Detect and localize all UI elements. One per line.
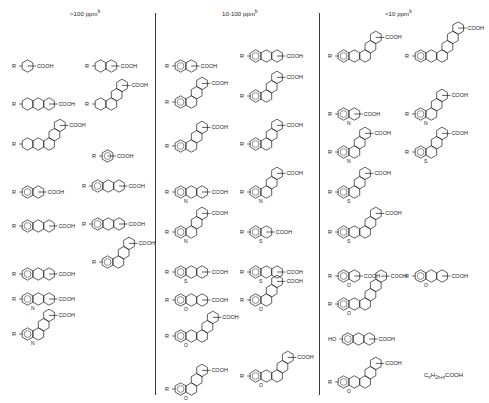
chemical-structure: RCOOH: [165, 78, 235, 112]
structure-drawing: ROCOOH: [328, 280, 415, 314]
substituent-label: R: [240, 189, 244, 195]
chemical-structure: RSCOOH: [328, 168, 398, 202]
structure-drawing: RCOOH: [12, 80, 82, 114]
structure-drawing: RCOOH: [12, 202, 82, 236]
chemical-structure: RCOOH: [240, 120, 310, 154]
cooh-label: COOH: [211, 297, 228, 303]
structure-drawing: RSCOOH: [328, 168, 398, 202]
structure-drawing: RCOOH: [328, 32, 409, 66]
structure-drawing: RCOOH: [240, 32, 310, 66]
cooh-label: COOH: [379, 336, 396, 342]
heteroatom-label: N: [31, 340, 35, 346]
cooh-label: COOH: [128, 183, 145, 189]
substituent-label: R: [12, 223, 16, 229]
structure-drawing: RNCOOH: [405, 90, 475, 124]
chemical-structure: RCOOH: [12, 42, 61, 76]
substituent-label: R: [92, 259, 96, 265]
structure-drawing: RCOOH: [82, 162, 152, 196]
structure-drawing: RSCOOH: [328, 208, 409, 242]
substituent-label: HO: [328, 336, 337, 342]
structure-drawing: RNCOOH: [165, 168, 235, 202]
heteroatom-label: N: [184, 198, 188, 204]
cooh-label: COOH: [385, 210, 402, 216]
structure-drawing: RNCOOH: [12, 310, 82, 344]
general-formula: CnH2n+zCOOH: [424, 372, 463, 380]
chemical-structure: RCOOH: [240, 32, 310, 66]
structure-drawing: RNCOOH: [165, 208, 235, 242]
substituent-label: R: [165, 189, 169, 195]
chemical-structure: RNCOOH: [240, 168, 310, 202]
structure-drawing: RCOOH: [240, 120, 310, 154]
structure-drawing: ROCOOH: [240, 276, 310, 310]
heteroatom-label: S: [347, 198, 351, 204]
chemical-structure: RCOOH: [82, 200, 152, 234]
substituent-label: R: [328, 229, 332, 235]
substituent-label: R: [240, 53, 244, 59]
heteroatom-label: O: [347, 388, 351, 394]
substituent-label: R: [240, 141, 244, 147]
substituent-label: R: [405, 111, 409, 117]
cooh-label: COOH: [211, 367, 228, 373]
chemical-structure: RNCOOH: [328, 90, 388, 124]
chemical-structure: RSCOOH: [405, 128, 475, 162]
heteroatom-label: N: [184, 238, 188, 244]
chemical-structure: ROCOOH: [405, 252, 475, 286]
structure-drawing: RCOOH: [12, 120, 93, 154]
chemical-structure: RCOOH: [12, 120, 93, 154]
structure-drawing: ROCOOH: [165, 365, 235, 399]
structure-drawing: RCOOH: [12, 42, 61, 76]
chemical-structure: RCOOH: [240, 72, 310, 106]
substituent-label: R: [165, 333, 169, 339]
header-text: >100 ppm: [70, 11, 98, 17]
structure-drawing: RCOOH: [165, 122, 235, 156]
structure-drawing: ROCOOH: [240, 352, 321, 386]
substituent-label: R: [82, 183, 86, 189]
cooh-label: COOH: [69, 122, 86, 128]
chemical-structure: RCOOH: [92, 238, 162, 272]
cooh-label: COOH: [222, 314, 239, 320]
substituent-label: R: [240, 229, 244, 235]
cooh-label: COOH: [211, 210, 228, 216]
structure-drawing: RNCOOH: [328, 128, 398, 162]
cooh-label: COOH: [48, 189, 65, 195]
cooh-label: COOH: [468, 25, 485, 31]
substituent-label: R: [405, 149, 409, 155]
substituent-label: R: [240, 297, 244, 303]
cooh-label: COOH: [451, 130, 468, 136]
chemical-structure: RCOOH: [328, 32, 409, 66]
chemical-structure: RSCOOH: [240, 208, 300, 242]
cooh-label: COOH: [211, 124, 228, 130]
substituent-label: R: [328, 273, 332, 279]
substituent-label: R: [240, 93, 244, 99]
structure-drawing: RCOOH: [92, 238, 162, 272]
column-header-gt100: >100 ppmb: [70, 9, 100, 17]
structure-drawing: RCOOH: [82, 200, 152, 234]
cooh-label: COOH: [286, 74, 303, 80]
header-text: <10 ppm: [385, 11, 409, 17]
cooh-label: COOH: [286, 170, 303, 176]
chemical-structure: RCOOH: [165, 122, 235, 156]
cooh-label: COOH: [131, 82, 148, 88]
cooh-label: COOH: [374, 130, 391, 136]
column-header-10to100: 10-100 ppmb: [222, 9, 258, 17]
cooh-label: COOH: [385, 34, 402, 40]
heteroatom-label: N: [347, 120, 351, 126]
column-header-lt10: <10 ppmb: [385, 9, 412, 17]
structure-drawing: RCOOH: [165, 42, 225, 76]
chemical-structure: RCOOH: [12, 80, 82, 114]
structure-drawing: RCOOH: [85, 80, 155, 114]
substituent-label: R: [82, 221, 86, 227]
chemical-structure: RCOOH: [12, 168, 72, 202]
cooh-label: COOH: [364, 111, 381, 117]
structure-drawing: RCOOH: [85, 42, 145, 76]
cooh-label: COOH: [58, 296, 75, 302]
heteroatom-label: N: [347, 158, 351, 164]
substituent-label: R: [12, 63, 16, 69]
chemical-structure: RNCOOH: [12, 310, 82, 344]
cooh-label: COOH: [211, 80, 228, 86]
chemical-structure: ROCOOH: [328, 358, 409, 392]
substituent-label: R: [328, 53, 332, 59]
substituent-label: R: [165, 143, 169, 149]
chemical-structure: RNCOOH: [165, 208, 235, 242]
cooh-label: COOH: [385, 360, 402, 366]
